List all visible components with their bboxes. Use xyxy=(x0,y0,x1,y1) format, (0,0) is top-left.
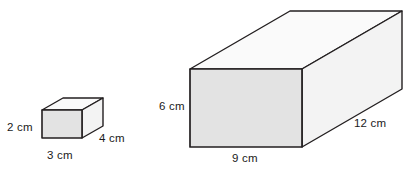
geometry-figure: 2 cm 3 cm 4 cm 6 cm 9 cm 12 cm xyxy=(0,0,418,173)
small-prism-depth-label: 4 cm xyxy=(99,133,125,145)
large-prism-depth-label: 12 cm xyxy=(354,118,386,130)
large-prism-front-face xyxy=(190,69,302,147)
small-prism-height-label: 2 cm xyxy=(7,122,33,134)
small-rectangular-prism xyxy=(42,98,103,138)
large-prism-width-label: 9 cm xyxy=(232,153,258,165)
small-prism-front-face xyxy=(42,110,82,138)
large-prism-height-label: 6 cm xyxy=(159,101,185,113)
small-prism-width-label: 3 cm xyxy=(47,150,73,162)
prisms-drawing xyxy=(0,0,418,173)
